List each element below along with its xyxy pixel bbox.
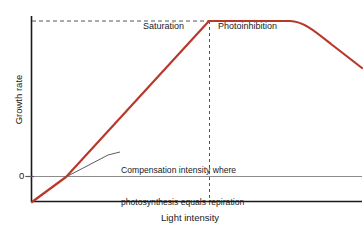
growth-rate-light-intensity-chart: Growth rate Light intensity 0 Saturation… (0, 0, 364, 235)
compensation-annotation-line-2: photosynthesis equals repiration (121, 197, 244, 208)
y-axis-zero-tick-label: 0 (19, 170, 24, 181)
compensation-leader-line (66, 152, 120, 177)
y-axis-label: Growth rate (13, 60, 24, 140)
compensation-annotation-line-1: Compensation intensity where (121, 165, 244, 176)
photoinhibition-region-label: Photoinhibition (218, 21, 277, 32)
saturation-region-label: Saturation (143, 21, 184, 32)
compensation-intensity-annotation: Compensation intensity where photosynthe… (121, 144, 244, 228)
